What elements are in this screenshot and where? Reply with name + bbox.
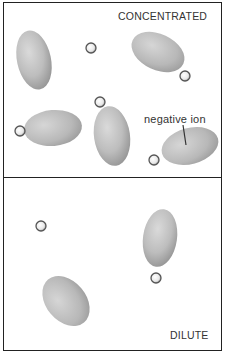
- positive-ion: [149, 155, 159, 165]
- positive-ion: [180, 71, 190, 81]
- positive-ion: [95, 97, 105, 107]
- negative-ion: [33, 267, 100, 336]
- positive-ion: [86, 43, 96, 53]
- positive-ion: [36, 221, 46, 231]
- negative-ion-label: negative ion: [144, 113, 206, 125]
- positive-ion: [151, 273, 161, 283]
- negative-ion: [90, 104, 134, 168]
- negative-ion: [139, 207, 181, 269]
- ion-scene: [0, 0, 227, 355]
- negative-ion: [157, 121, 222, 171]
- concentrated-panel: [11, 24, 223, 171]
- concentrated-label: CONCENTRATED: [118, 10, 207, 22]
- dilute-panel: [33, 207, 181, 335]
- positive-ion: [15, 126, 25, 136]
- negative-ion: [125, 24, 191, 80]
- dilute-label: DILUTE: [170, 329, 209, 341]
- negative-ion: [11, 27, 57, 93]
- negative-ion: [23, 108, 84, 149]
